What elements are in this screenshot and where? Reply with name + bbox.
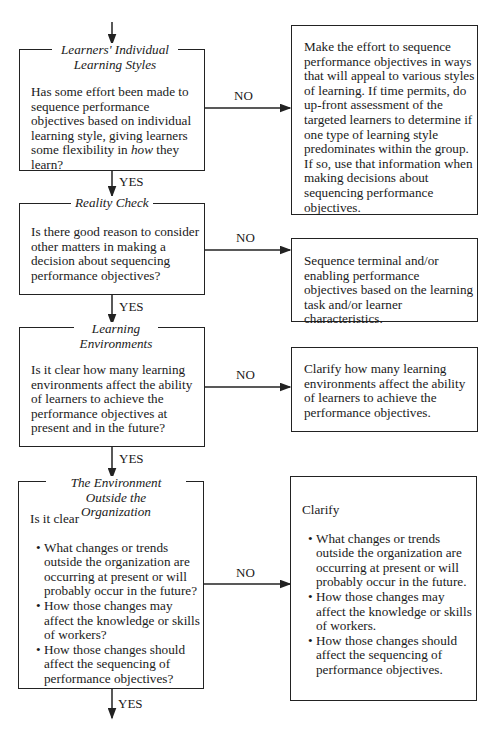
action-intro: Clarify bbox=[302, 503, 476, 518]
decision-question-learning-environments: Is it clear how many learning environmen… bbox=[31, 363, 201, 436]
decision-title-learning-styles: Learners' Individual Learning Styles bbox=[52, 43, 178, 72]
no-label: NO bbox=[236, 566, 255, 580]
question-bullet: How those changes should affect the sequ… bbox=[30, 643, 204, 687]
question-emphasis: how bbox=[131, 142, 153, 157]
no-label: NO bbox=[236, 368, 255, 382]
title-line: Learning bbox=[92, 321, 140, 336]
action-bullet: How those changes should affect the sequ… bbox=[302, 634, 476, 678]
question-bullet: How those changes may affect the knowled… bbox=[30, 599, 204, 643]
action-text-outside-environment: Clarify What changes or trends outside t… bbox=[302, 503, 476, 678]
yes-label: YES bbox=[119, 300, 144, 314]
decision-question-outside-environment: Is it clear What changes or trends outsi… bbox=[30, 512, 204, 687]
decision-question-learning-styles: Has some effort been made to sequence pe… bbox=[31, 85, 201, 173]
yes-label: YES bbox=[118, 697, 143, 711]
question-intro: Is it clear bbox=[30, 512, 204, 527]
no-label: NO bbox=[236, 231, 255, 245]
yes-label: YES bbox=[119, 175, 144, 189]
no-label: NO bbox=[234, 89, 253, 103]
action-text-learning-styles: Make the effort to sequence performance … bbox=[304, 40, 476, 215]
action-text-learning-environments: Clarify how many learning environments a… bbox=[304, 362, 478, 420]
title-line: Learners' Individual bbox=[61, 42, 169, 57]
question-bullets: What changes or trends outside the organ… bbox=[30, 541, 204, 687]
action-bullets: What changes or trends outside the organ… bbox=[302, 532, 476, 678]
title-line: Learning Styles bbox=[74, 57, 156, 72]
action-text-reality-check: Sequence terminal and/or enabling perfor… bbox=[304, 254, 476, 327]
decision-question-reality-check: Is there good reason to consider other m… bbox=[31, 225, 201, 283]
yes-label: YES bbox=[119, 452, 144, 466]
action-bullet: How those changes may affect the knowled… bbox=[302, 590, 476, 634]
action-bullet: What changes or trends outside the organ… bbox=[302, 532, 476, 590]
title-line: The Environment bbox=[71, 475, 162, 490]
title-line: Environments bbox=[80, 336, 153, 351]
question-bullet: What changes or trends outside the organ… bbox=[30, 541, 204, 599]
decision-title-reality-check: Reality Check bbox=[71, 196, 153, 211]
decision-title-learning-environments: Learning Environments bbox=[74, 322, 158, 351]
